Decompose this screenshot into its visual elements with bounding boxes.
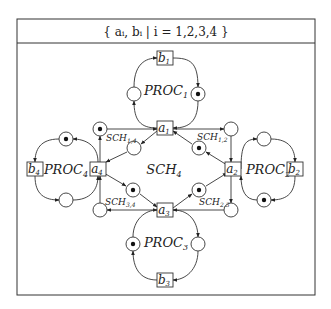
proc1-label: PROC1 [143,83,188,100]
arc [173,251,198,280]
arc [173,210,198,237]
arc [141,131,157,144]
token-s12-inner [197,146,201,150]
token-p3-left [131,242,135,246]
arc [271,176,295,200]
arc [104,173,126,186]
petri-net-diagram: { aᵢ, bᵢ | i = 1,2,3,4 } a1a2a3a4b1b2b3b… [0,0,331,309]
arc [106,152,127,162]
proc3-label: PROC3 [143,235,188,252]
sch34-label: SCH3,4 [105,197,136,208]
token-s14-outer [98,127,102,131]
token-s34-inner [131,188,135,192]
sch4-label: SCH4 [146,162,181,179]
header-formula: { aᵢ, bᵢ | i = 1,2,3,4 } [103,25,228,39]
place-p1-left [127,87,141,101]
arc [35,176,59,200]
sch14-label: SCH1,4 [106,133,137,144]
arc [73,176,98,200]
place-p2-top [257,132,271,146]
arc [73,139,98,162]
arc [134,101,157,128]
arc [241,176,257,200]
arc [133,251,157,280]
arc [271,139,295,162]
arc [133,210,157,237]
arc [173,101,198,128]
arc [35,139,59,162]
arc [206,173,227,186]
arc [173,194,192,208]
arc [173,131,192,144]
sch23-label: SCH2,3 [199,197,230,208]
token-p1-right [196,92,200,96]
place-p3-right [191,237,205,251]
proc4-label: PROC4 [43,162,88,179]
token-p4-top [64,137,68,141]
token-p2-bottom [262,198,266,202]
sch12-label: SCH1,2 [197,132,228,143]
token-s23-inner [197,188,201,192]
arc [140,194,157,207]
place-s12-outer [224,122,238,136]
proc2-label: PROC2 [245,162,290,179]
place-p4-bottom [59,193,73,207]
arc [206,152,227,165]
